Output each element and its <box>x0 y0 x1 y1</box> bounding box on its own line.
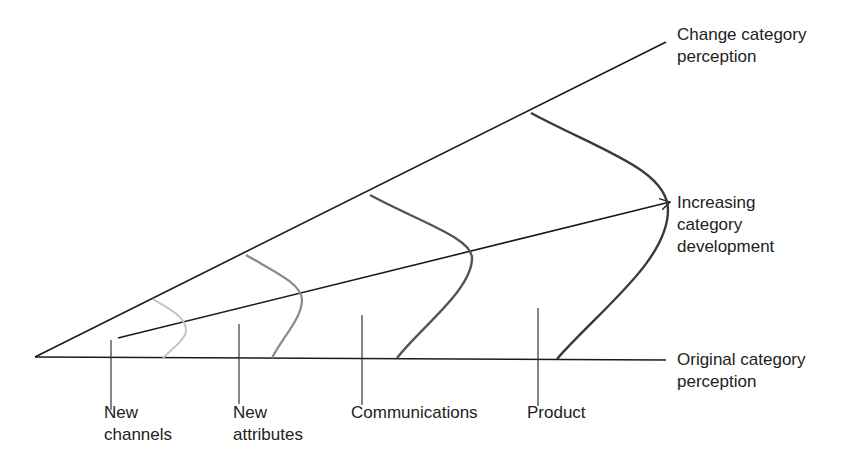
increasing-development-arrow <box>118 202 670 338</box>
label-increasing-category-development: Increasing category development <box>677 192 774 258</box>
label-line: perception <box>677 371 806 393</box>
curve-communications <box>370 195 472 358</box>
label-line: development <box>677 236 774 258</box>
curve-new-attributes <box>246 255 302 358</box>
label-new-attributes: New attributes <box>233 402 303 446</box>
label-line: channels <box>104 424 172 446</box>
label-line: Product <box>527 402 586 424</box>
label-line: perception <box>677 46 806 68</box>
label-line: New <box>233 402 303 424</box>
label-change-category-perception: Change category perception <box>677 24 806 68</box>
curve-product <box>531 113 668 359</box>
original-perception-line <box>35 357 666 360</box>
label-line: Change category <box>677 24 806 46</box>
label-line: New <box>104 402 172 424</box>
change-perception-line <box>35 42 666 357</box>
label-line: attributes <box>233 424 303 446</box>
label-product: Product <box>527 402 586 424</box>
label-original-category-perception: Original category perception <box>677 349 806 393</box>
label-line: category <box>677 214 774 236</box>
label-line: Original category <box>677 349 806 371</box>
label-line: Communications <box>351 402 478 424</box>
label-communications: Communications <box>351 402 478 424</box>
label-line: Increasing <box>677 192 774 214</box>
label-new-channels: New channels <box>104 402 172 446</box>
